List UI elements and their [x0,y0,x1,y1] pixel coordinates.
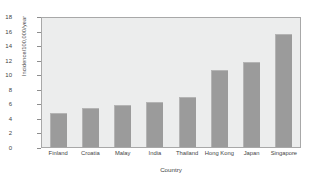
x-axis-tick-label: Japan [236,150,268,156]
bar [179,97,196,147]
y-axis-tick-mark [37,104,41,105]
y-axis-tick-label: 18 [0,14,12,20]
y-axis-tick-label: 12 [0,58,12,64]
bar-cell [236,18,268,147]
y-axis-tick-mark [37,75,41,76]
bar [114,105,131,147]
y-axis-tick-label: 10 [0,72,12,78]
y-axis-tick-mark [37,90,41,91]
x-axis-tick-label: Malay [107,150,139,156]
bar-cell [107,18,139,147]
bar-cell [74,18,106,147]
y-axis-tick-mark [37,46,41,47]
y-axis-tick-mark [37,133,41,134]
y-axis-tick-label: 16 [0,29,12,35]
x-axis-tick-label: Singapore [268,150,300,156]
y-axis-tick-label: 2 [0,130,12,136]
y-axis-tick-mark [37,17,41,18]
bar [275,34,292,147]
bar-cell [268,18,300,147]
y-axis-tick-label: 8 [0,87,12,93]
x-axis-tick-label: Thailand [171,150,203,156]
x-axis-tick-label: India [139,150,171,156]
y-axis-tick-mark [37,148,41,149]
y-axis-tick-label: 0 [0,145,12,151]
bar [211,70,228,147]
y-axis-tick-label: 6 [0,101,12,107]
y-axis-tick-mark [37,61,41,62]
bar-chart: Incidence/100,000/year FinlandCroatiaMal… [0,0,315,184]
y-axis-tick-mark [37,32,41,33]
bar [243,62,260,147]
y-axis-title: Incidence/100,000/year [21,0,27,106]
x-axis-tick-label: Finland [42,150,74,156]
y-axis-tick-mark [37,119,41,120]
bar [82,108,99,147]
bar-cell [42,18,74,147]
bar-cell [139,18,171,147]
y-axis-tick-label: 14 [0,43,12,49]
bar [146,102,163,147]
bar-cell [203,18,235,147]
x-axis-tick-labels: FinlandCroatiaMalayIndiaThailandHong Kon… [42,150,300,156]
bar-series [42,18,300,147]
y-axis-tick-label: 4 [0,116,12,122]
x-axis-tick-label: Hong Kong [203,150,235,156]
bar [50,113,67,147]
bar-cell [171,18,203,147]
x-axis-tick-label: Croatia [74,150,106,156]
x-axis-title: Country [41,166,301,173]
